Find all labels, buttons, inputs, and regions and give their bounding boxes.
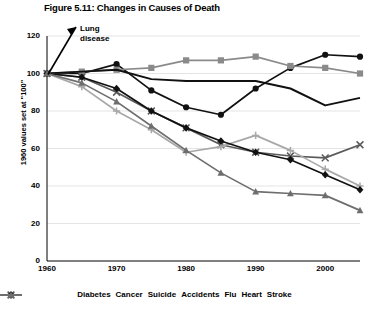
- lung-disease-annotation-line2: disease: [80, 34, 109, 44]
- legend-swatch-triangle-icon: [0, 290, 22, 300]
- legend-label: Stroke: [267, 290, 292, 299]
- legend-item-heart[interactable]: Heart: [238, 290, 263, 299]
- legend-item-stroke[interactable]: Stroke: [264, 290, 294, 299]
- data-point: [148, 87, 154, 93]
- series-accidents: [44, 70, 364, 161]
- series-line: [47, 74, 360, 211]
- data-point: [322, 171, 329, 179]
- annotation-arrow: [48, 27, 76, 75]
- series-line: [47, 74, 360, 158]
- legend-item-accidents[interactable]: Accidents: [178, 290, 221, 299]
- legend-item-diabetes[interactable]: Diabetes: [74, 290, 112, 299]
- data-point: [253, 54, 259, 60]
- legend-label: Heart: [241, 290, 261, 299]
- data-point: [287, 156, 294, 164]
- series-line: [47, 55, 360, 115]
- data-point: [217, 169, 224, 175]
- legend-label: Accidents: [181, 290, 219, 299]
- data-point: [218, 57, 224, 63]
- series-diabetes: [44, 52, 363, 118]
- lung-disease-annotation: Lung disease: [80, 24, 109, 44]
- data-point: [252, 132, 259, 139]
- data-point: [287, 63, 293, 69]
- legend-label: Flu: [224, 290, 236, 299]
- plot-area: [0, 0, 368, 315]
- data-point: [113, 61, 119, 67]
- legend-label: Cancer: [116, 290, 143, 299]
- data-point: [357, 54, 363, 60]
- series-suicide: [47, 70, 360, 106]
- data-point: [357, 186, 364, 194]
- annotation-arrow-head: [67, 27, 76, 35]
- series-cancer: [44, 54, 363, 77]
- data-point: [148, 65, 154, 71]
- annotation-arrow-line: [48, 27, 76, 75]
- chart-legend: DiabetesCancerSuicideAccidentsFluHeartSt…: [0, 290, 368, 299]
- data-point: [218, 112, 224, 118]
- series-line: [47, 74, 360, 190]
- data-point: [322, 65, 328, 71]
- data-point: [322, 52, 328, 58]
- legend-item-flu[interactable]: Flu: [221, 290, 238, 299]
- series-line: [47, 70, 360, 106]
- series-stroke: [44, 70, 364, 213]
- chart-container: Figure 5.11: Changes in Causes of Death …: [0, 0, 368, 315]
- legend-label: Suicide: [148, 290, 176, 299]
- data-point: [183, 104, 189, 110]
- data-point: [183, 57, 189, 63]
- data-point: [357, 70, 363, 76]
- legend-item-cancer[interactable]: Cancer: [113, 290, 145, 299]
- lung-disease-annotation-line1: Lung: [80, 24, 109, 34]
- legend-label: Diabetes: [77, 290, 110, 299]
- legend-item-suicide[interactable]: Suicide: [145, 290, 178, 299]
- data-point: [253, 85, 259, 91]
